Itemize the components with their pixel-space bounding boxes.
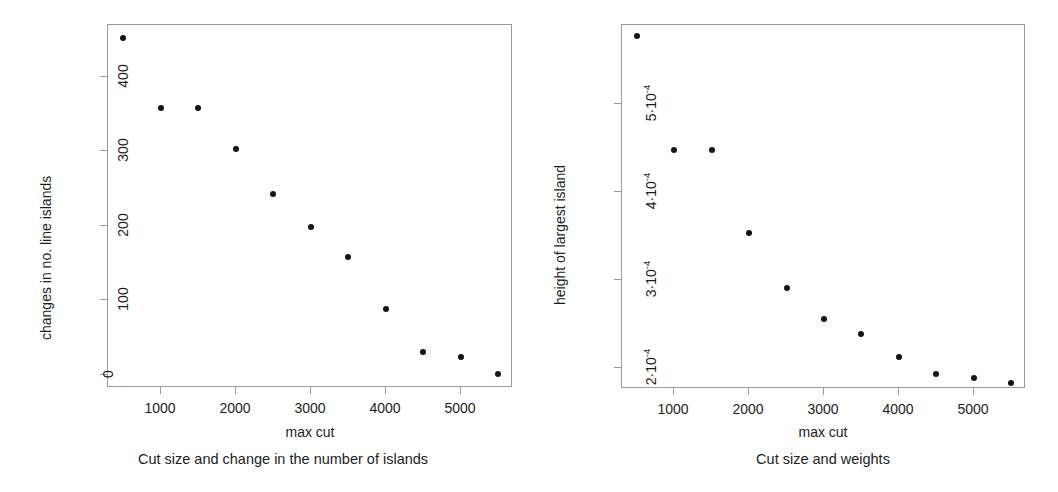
data-point xyxy=(858,331,864,337)
data-point xyxy=(270,191,276,197)
data-point xyxy=(158,105,164,111)
y-tick-label: 4·10-4 xyxy=(643,191,659,228)
plot-box-left xyxy=(107,24,512,387)
x-tick-mark xyxy=(385,387,386,394)
y-tick-label: 100 xyxy=(115,299,131,322)
x-axis-title-right: max cut xyxy=(798,424,847,440)
x-tick-label: 4000 xyxy=(882,401,913,417)
x-tick-label: 1000 xyxy=(657,401,688,417)
figure-two-scatter-panels: 0100200300400 10002000300040005000 chang… xyxy=(0,0,1058,492)
y-tick-label: 300 xyxy=(115,150,131,173)
y-tick-mark xyxy=(614,191,621,192)
data-point xyxy=(383,306,389,312)
x-tick-mark xyxy=(973,388,974,395)
y-axis-title-left: changes in no. line islands xyxy=(38,176,54,340)
y-tick-label: 400 xyxy=(115,76,131,99)
data-point xyxy=(634,33,640,39)
x-tick-label: 1000 xyxy=(144,400,175,416)
panel-left-changes-in-islands: 0100200300400 10002000300040005000 chang… xyxy=(0,0,529,492)
x-tick-mark xyxy=(460,387,461,394)
x-tick-label: 4000 xyxy=(369,400,400,416)
data-point xyxy=(784,285,790,291)
y-tick-mark xyxy=(100,225,107,226)
x-tick-mark xyxy=(748,388,749,395)
plot-area-right xyxy=(622,25,1024,387)
data-point xyxy=(746,230,752,236)
data-point xyxy=(971,375,977,381)
plot-area-left xyxy=(108,25,511,386)
x-tick-mark xyxy=(235,387,236,394)
x-tick-mark xyxy=(160,387,161,394)
x-tick-label: 2000 xyxy=(219,400,250,416)
data-point xyxy=(709,147,715,153)
caption-right: Cut size and weights xyxy=(756,451,890,467)
y-tick-mark xyxy=(614,103,621,104)
data-point xyxy=(420,349,426,355)
x-tick-mark xyxy=(310,387,311,394)
y-tick-label: 3·10-4 xyxy=(643,279,659,316)
y-tick-label: 200 xyxy=(115,225,131,248)
data-point xyxy=(933,371,939,377)
x-tick-mark xyxy=(823,388,824,395)
x-tick-label: 3000 xyxy=(294,400,325,416)
y-tick-mark xyxy=(100,150,107,151)
caption-left: Cut size and change in the number of isl… xyxy=(138,451,428,467)
data-point xyxy=(495,371,501,377)
data-point xyxy=(821,316,827,322)
data-point xyxy=(233,146,239,152)
x-tick-mark xyxy=(898,388,899,395)
x-tick-label: 3000 xyxy=(807,401,838,417)
y-tick-label: 0 xyxy=(100,374,116,382)
y-axis-title-right: height of largest island xyxy=(552,165,568,305)
y-tick-label: 2·10-4 xyxy=(643,367,659,404)
plot-box-right xyxy=(621,24,1025,388)
data-point xyxy=(345,254,351,260)
panel-right-height-of-island: 2·10-43·10-44·10-45·10-4 100020003000400… xyxy=(529,0,1058,492)
data-point xyxy=(1008,380,1014,386)
x-tick-label: 5000 xyxy=(957,401,988,417)
data-point xyxy=(896,354,902,360)
x-tick-label: 5000 xyxy=(444,400,475,416)
y-tick-mark xyxy=(614,367,621,368)
data-point xyxy=(671,147,677,153)
data-point xyxy=(308,224,314,230)
y-tick-mark xyxy=(100,299,107,300)
x-tick-label: 2000 xyxy=(732,401,763,417)
y-tick-label: 5·10-4 xyxy=(643,103,659,140)
y-tick-mark xyxy=(614,279,621,280)
x-tick-mark xyxy=(673,388,674,395)
y-tick-mark xyxy=(100,76,107,77)
data-point xyxy=(458,354,464,360)
x-axis-title-left: max cut xyxy=(285,424,334,440)
data-point xyxy=(120,35,126,41)
data-point xyxy=(195,105,201,111)
